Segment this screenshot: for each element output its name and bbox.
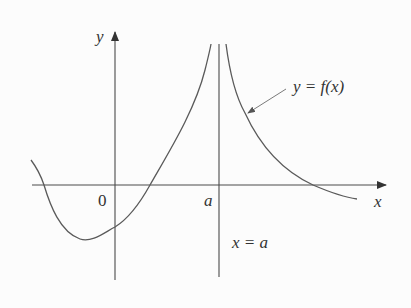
asymptote-label: x = a (231, 233, 268, 252)
curve-label-pointer (248, 89, 286, 113)
curve-right-branch (226, 44, 357, 199)
curve-left-branch (31, 44, 211, 240)
asymptote-diagram: y x 0 a x = a y = f(x) (0, 0, 411, 308)
curve-label: y = f(x) (291, 77, 344, 96)
a-tick-label: a (204, 191, 213, 210)
origin-label: 0 (98, 191, 107, 210)
y-axis-label: y (94, 27, 104, 46)
x-axis-label: x (373, 192, 382, 211)
